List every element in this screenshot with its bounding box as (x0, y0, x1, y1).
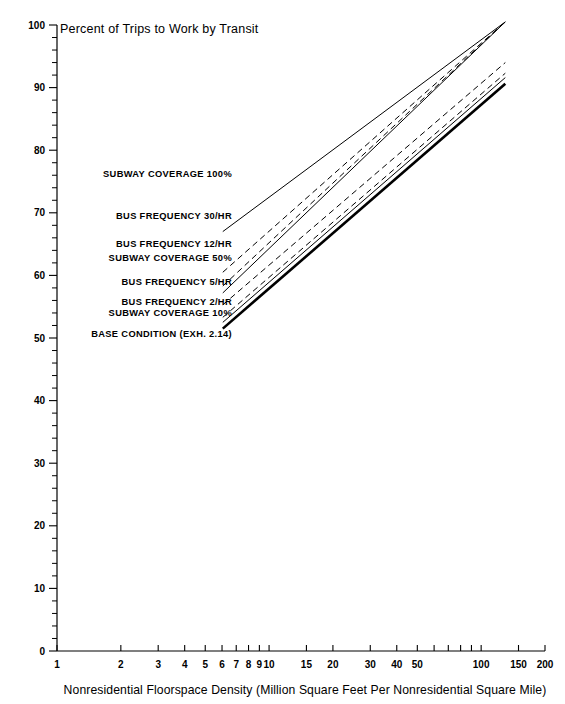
series-label: BUS FREQUENCY 30/HR (116, 211, 232, 221)
x-tick-label: 7 (233, 659, 239, 670)
y-tick-label: 100 (28, 20, 45, 31)
x-tick-label: 30 (365, 659, 377, 670)
series-line (223, 84, 506, 329)
y-tick-label: 80 (34, 145, 46, 156)
x-tick-label: 200 (537, 659, 554, 670)
y-tick-label: 0 (39, 646, 45, 657)
series-label: SUBWAY COVERAGE 10% (109, 308, 233, 318)
y-tick-label: 30 (34, 458, 46, 469)
x-tick-label: 4 (182, 659, 188, 670)
series-label: BASE CONDITION (EXH. 2.14) (91, 329, 232, 339)
x-tick-label: 8 (246, 659, 252, 670)
series-line (223, 73, 506, 317)
x-tick-label: 6 (219, 659, 225, 670)
y-tick-label: 50 (34, 333, 46, 344)
y-tick-label: 40 (34, 395, 46, 406)
y-tick-label: 20 (34, 520, 46, 531)
series-label: SUBWAY COVERAGE 100% (103, 169, 232, 179)
series-lines-group (223, 22, 506, 329)
x-tick-label: 40 (391, 659, 403, 670)
x-tick-label: 150 (510, 659, 527, 670)
x-tick-label: 10 (264, 659, 276, 670)
chart-container: 0102030405060708090100123456789101520304… (0, 0, 565, 704)
x-tick-label: 5 (202, 659, 208, 670)
x-axis-title: Nonresidential Floorspace Density (Milli… (64, 683, 547, 697)
y-tick-label: 60 (34, 270, 46, 281)
chart-title: Percent of Trips to Work by Transit (60, 22, 259, 36)
series-label: BUS FREQUENCY 12/HR (116, 239, 232, 249)
series-label: SUBWAY COVERAGE 50% (109, 253, 233, 263)
series-label: BUS FREQUENCY 5/HR (122, 277, 232, 287)
x-tick-label: 2 (118, 659, 124, 670)
x-tick-label: 9 (257, 659, 263, 670)
transit-share-line-chart: 0102030405060708090100123456789101520304… (0, 0, 565, 704)
x-tick-label: 100 (473, 659, 490, 670)
x-tick-label: 20 (327, 659, 339, 670)
series-line (223, 22, 506, 286)
x-tick-label: 3 (155, 659, 161, 670)
series-line (223, 63, 506, 305)
series-line (223, 22, 506, 272)
series-label: BUS FREQUENCY 2/HR (122, 297, 232, 307)
x-tick-label: 1 (54, 659, 60, 670)
x-tick-label: 50 (412, 659, 424, 670)
x-tick-label: 15 (301, 659, 313, 670)
series-line (223, 22, 506, 293)
y-tick-label: 90 (34, 82, 46, 93)
y-tick-label: 10 (34, 583, 46, 594)
text-layer: 0102030405060708090100123456789101520304… (28, 20, 553, 697)
y-tick-label: 70 (34, 207, 46, 218)
